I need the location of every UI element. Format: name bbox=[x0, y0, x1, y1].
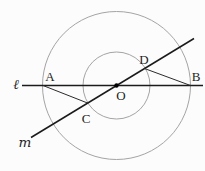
figure-canvas: ℓ m A B C D O bbox=[0, 0, 205, 171]
label-point-B: B bbox=[192, 69, 201, 84]
label-point-D: D bbox=[139, 52, 148, 67]
geometry-figure: ℓ m A B C D O bbox=[0, 0, 205, 171]
label-point-A: A bbox=[45, 69, 55, 84]
label-line-m: m bbox=[19, 134, 32, 150]
label-center-O: O bbox=[116, 88, 125, 103]
label-line-l: ℓ bbox=[13, 76, 19, 92]
label-point-C: C bbox=[82, 111, 91, 126]
